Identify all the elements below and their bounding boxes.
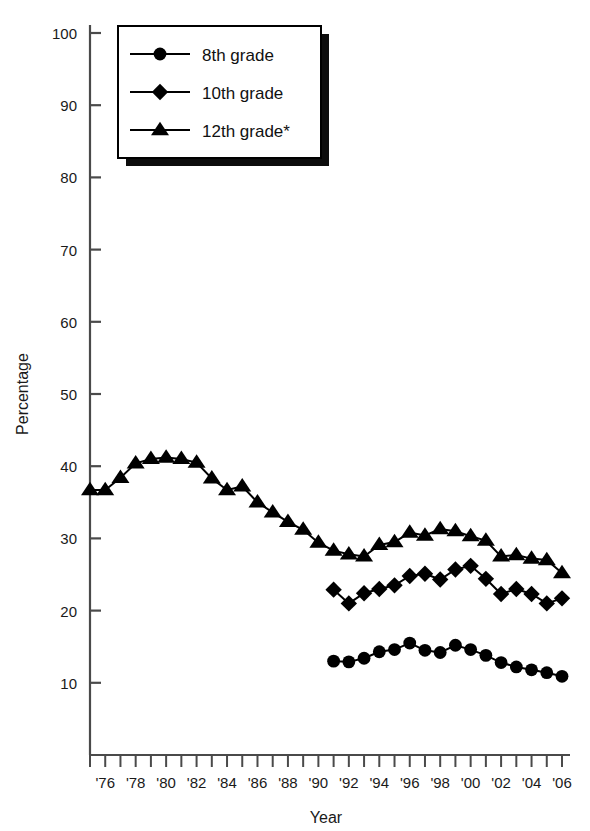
x-axis-tick-label: '88 <box>278 774 298 791</box>
legend-label: 8th grade <box>202 46 274 65</box>
circle-marker <box>358 652 371 665</box>
circle-marker <box>434 646 447 659</box>
circle-marker <box>525 663 538 676</box>
triangle-marker <box>142 451 160 465</box>
x-axis-tick-label: '82 <box>187 774 207 791</box>
triangle-marker <box>172 451 190 465</box>
series-circle <box>327 637 568 683</box>
x-axis-tick-label: '00 <box>461 774 481 791</box>
diamond-marker <box>508 581 524 597</box>
triangle-marker <box>279 513 297 527</box>
chart-figure: 102030405060708090100'76'78'80'82'84'86'… <box>0 0 590 831</box>
x-axis-tick-label: '78 <box>126 774 146 791</box>
x-axis-tick-label: '76 <box>95 774 115 791</box>
x-axis-tick-label: '84 <box>217 774 237 791</box>
circle-marker <box>342 655 355 668</box>
x-axis-tick-label: '02 <box>491 774 511 791</box>
x-axis-tick-label: '96 <box>400 774 420 791</box>
diamond-marker <box>539 595 555 611</box>
circle-marker <box>154 48 167 61</box>
circle-marker <box>495 656 508 669</box>
legend-label: 12th grade* <box>202 122 290 141</box>
triangle-marker <box>264 504 282 518</box>
diamond-marker <box>447 561 463 577</box>
y-axis-title: Percentage <box>14 353 31 435</box>
x-axis-tick-label: '86 <box>248 774 268 791</box>
series-diamond <box>325 558 570 612</box>
circle-marker <box>388 643 401 656</box>
circle-marker <box>510 661 523 674</box>
triangle-marker <box>294 521 312 535</box>
circle-marker <box>449 639 462 652</box>
circle-marker <box>556 670 569 683</box>
triangle-marker <box>81 482 99 496</box>
circle-marker <box>540 666 553 679</box>
circle-marker <box>327 655 340 668</box>
triangle-marker <box>507 547 525 561</box>
diamond-marker <box>554 590 570 606</box>
chart-canvas: 102030405060708090100'76'78'80'82'84'86'… <box>0 0 590 831</box>
triangle-marker <box>386 534 404 548</box>
diamond-marker <box>523 586 539 602</box>
circle-marker <box>479 649 492 662</box>
x-axis-tick-label: '04 <box>522 774 542 791</box>
triangle-marker <box>401 524 419 538</box>
x-axis-tick-label: '90 <box>309 774 329 791</box>
y-axis-tick-label: 100 <box>52 25 77 42</box>
triangle-marker <box>233 478 251 492</box>
x-axis-tick-label: '80 <box>156 774 176 791</box>
data-series-group <box>81 449 571 683</box>
legend-label: 10th grade <box>202 84 283 103</box>
triangle-marker <box>157 449 175 463</box>
x-axis-tick-label: '94 <box>370 774 390 791</box>
circle-marker <box>373 645 386 658</box>
x-axis-tick-label: '98 <box>430 774 450 791</box>
y-axis-tick-label: 30 <box>60 530 77 547</box>
diamond-marker <box>371 581 387 597</box>
diamond-marker <box>402 568 418 584</box>
triangle-marker <box>538 552 556 566</box>
triangle-marker <box>431 521 449 535</box>
diamond-marker <box>386 577 402 593</box>
x-axis-tick-label: '92 <box>339 774 359 791</box>
circle-marker <box>464 643 477 656</box>
series-triangle <box>81 449 571 578</box>
circle-marker <box>403 637 416 650</box>
y-axis-tick-label: 10 <box>60 675 77 692</box>
y-axis-tick-label: 20 <box>60 603 77 620</box>
y-axis-tick-label: 90 <box>60 97 77 114</box>
triangle-marker <box>325 542 343 556</box>
x-axis-title: Year <box>310 809 343 826</box>
y-axis-tick-label: 80 <box>60 169 77 186</box>
circle-marker <box>419 644 432 657</box>
legend-group: 8th grade10th grade12th grade* <box>118 26 329 166</box>
diamond-marker <box>356 585 372 601</box>
y-axis-tick-label: 60 <box>60 314 77 331</box>
y-axis-tick-label: 70 <box>60 242 77 259</box>
diamond-marker <box>417 566 433 582</box>
y-axis-tick-label: 40 <box>60 458 77 475</box>
x-axis-tick-label: '06 <box>552 774 572 791</box>
diamond-marker <box>432 571 448 587</box>
y-axis-tick-label: 50 <box>60 386 77 403</box>
